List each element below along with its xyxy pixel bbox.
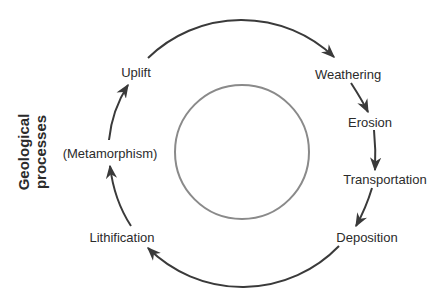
side-title-line1: Geological [16,114,33,191]
stage-label-metamorphism: (Metamorphism) [61,147,160,160]
stage-label-transportation: Transportation [343,173,426,186]
arrow-weathering-to-erosion [351,83,368,112]
side-title: Geological processes [16,114,49,191]
stage-label-deposition: Deposition [336,231,397,244]
arrow-metamorphism-to-uplift [109,85,128,140]
stage-label-uplift: Uplift [121,66,151,79]
arrow-uplift-to-weathering [148,20,334,58]
arrow-lithification-to-metamorphism [110,166,131,226]
arrow-transportation-to-deposition [356,188,372,226]
rock-cycle-diagram: Geological processes Uplift Weathering E… [0,0,435,302]
stage-label-weathering: Weathering [315,68,381,81]
arrow-erosion-to-transportation [374,130,375,170]
side-title-line2: processes [32,114,49,191]
arrow-deposition-to-lithification [148,246,339,287]
stage-label-erosion: Erosion [348,116,392,129]
inner-circle [175,85,309,219]
stage-label-lithification: Lithification [89,231,154,244]
